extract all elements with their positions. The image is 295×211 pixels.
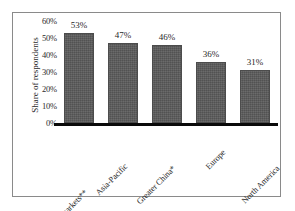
bar-value-label-5: 31% [247,58,264,67]
y-tick-label-60: 60% [42,17,57,26]
y-axis-tick-labels: 60% 50% 40% 30% 20% 10% 0% [29,21,57,123]
bar-value-label-2: 47% [115,31,132,40]
y-tick-label-50: 50% [42,34,57,43]
bar-developing-markets[interactable] [64,33,94,123]
x-label-north-america: North America [211,164,281,211]
y-tick-label-30: 30% [42,68,57,77]
bar-north-america[interactable] [240,70,270,123]
y-tick-label-40: 40% [42,51,57,60]
bar-value-label-1: 53% [71,21,88,30]
bar-asia-pacific[interactable] [108,43,138,123]
y-tick-label-10: 10% [42,102,57,111]
y-tick-label-20: 20% [42,85,57,94]
bar-europe[interactable] [196,62,226,123]
plot-area: 53% 47% 46% 36% 31% [56,21,274,123]
bar-value-label-4: 36% [203,50,220,59]
x-axis-category-labels: Developing markets** Asia-Pacific Greate… [13,126,282,198]
bar-greater-china[interactable] [152,45,182,123]
bar-value-label-3: 46% [159,33,176,42]
chart-frame: Share of respondents 60% 50% 40% 30% 20%… [12,12,281,197]
figure-root: Share of respondents 60% 50% 40% 30% 20%… [0,0,295,211]
x-label-europe: Europe [175,148,227,200]
